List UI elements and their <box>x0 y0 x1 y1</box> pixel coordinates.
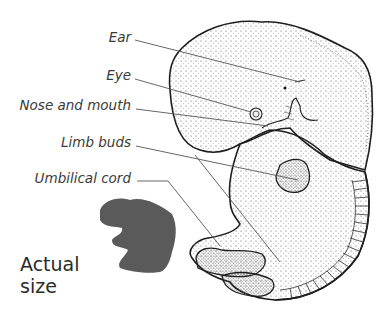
caption-line-1: Actual <box>20 253 80 275</box>
label-nose-and-mouth: Nose and mouth <box>20 97 132 113</box>
actual-size-silhouette <box>100 198 176 272</box>
embryo-diagram: Ear Eye Nose and mouth Limb buds Umbilic… <box>0 0 389 311</box>
actual-size-caption: Actual size <box>20 253 80 297</box>
label-limb-buds: Limb buds <box>61 134 131 150</box>
label-umbilical-cord: Umbilical cord <box>35 170 131 186</box>
label-ear: Ear <box>109 29 131 45</box>
label-eye: Eye <box>106 67 131 83</box>
caption-line-2: size <box>20 275 80 297</box>
